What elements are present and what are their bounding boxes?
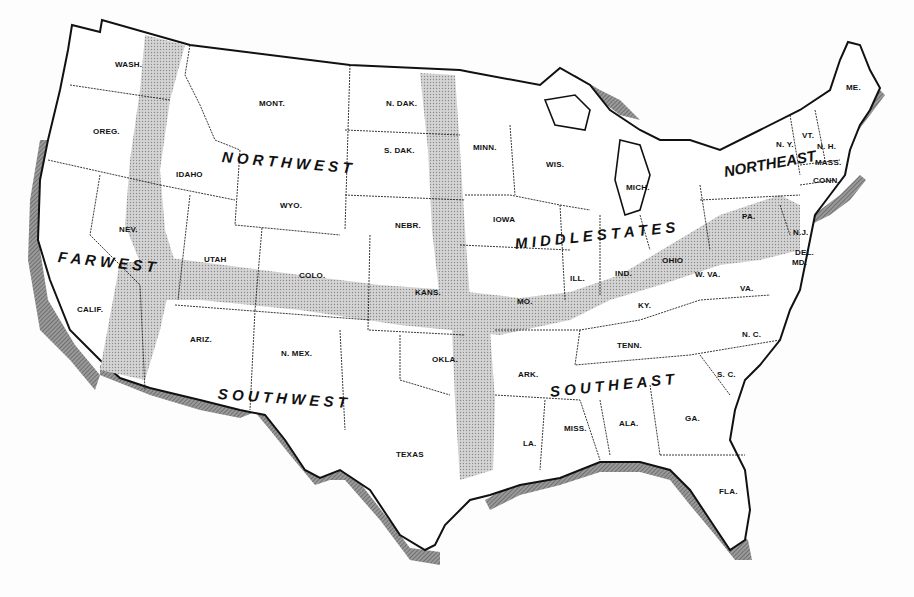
state-label: WASH.	[115, 60, 142, 69]
state-label: N. Y.	[776, 140, 794, 149]
state-label: MONT.	[259, 99, 285, 108]
state-label: OHIO	[662, 256, 683, 265]
state-label: TENN.	[617, 341, 642, 350]
state-label: VA.	[740, 284, 753, 293]
state-label: DEL.	[795, 248, 814, 257]
state-label: KY.	[638, 301, 651, 310]
state-label: IDAHO	[176, 170, 203, 179]
state-label: MD.	[792, 258, 807, 267]
state-label: ARK.	[518, 370, 538, 379]
state-label: S. DAK.	[384, 146, 415, 155]
state-label: CALIF.	[77, 305, 103, 314]
state-label: WYO.	[280, 201, 302, 210]
state-label: UTAH	[204, 255, 226, 264]
state-label: FLA.	[719, 487, 738, 496]
state-label: N. MEX.	[281, 349, 312, 358]
state-label: TEXAS	[396, 450, 424, 459]
state-label: COLO.	[299, 271, 325, 280]
state-label: N. C.	[742, 330, 761, 339]
state-label: S. C.	[717, 370, 736, 379]
state-label: OREG.	[93, 127, 120, 136]
state-label: N. H.	[817, 142, 836, 151]
state-label: ILL.	[570, 274, 585, 283]
state-label: VT.	[802, 131, 814, 140]
state-label: GA.	[685, 414, 700, 423]
state-label: LA.	[523, 439, 537, 448]
state-label: W. VA.	[695, 270, 721, 279]
state-label: MISS.	[564, 424, 587, 433]
state-label: MO.	[517, 297, 533, 306]
us-regions-map	[0, 0, 914, 597]
state-label: MINN.	[473, 143, 497, 152]
state-label: IND.	[615, 269, 632, 278]
state-label: CONN.	[813, 176, 840, 185]
state-label: N.J.	[793, 228, 808, 237]
state-label: KANS.	[415, 288, 441, 297]
state-label: WIS.	[546, 160, 564, 169]
state-label: ME.	[846, 83, 861, 92]
state-label: NEBR.	[395, 221, 421, 230]
state-label: MASS.	[815, 158, 841, 167]
state-label: MICH.	[626, 183, 650, 192]
state-label: PA.	[742, 212, 755, 221]
state-label: OKLA.	[432, 355, 458, 364]
state-label: IOWA	[493, 215, 515, 224]
state-label: N. DAK.	[386, 99, 417, 108]
state-label: NEV.	[119, 225, 138, 234]
state-label: ALA.	[619, 419, 638, 428]
state-label: ARIZ.	[190, 335, 212, 344]
